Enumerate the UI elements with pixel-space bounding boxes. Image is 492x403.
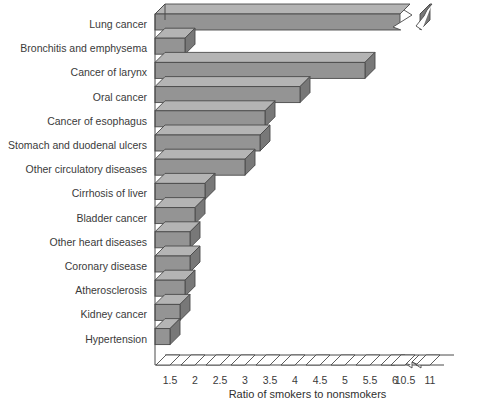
bar-front-face (155, 232, 190, 248)
x-tick-label: 4.5 (313, 374, 328, 386)
tick-wedge (231, 355, 255, 365)
bar-top-face (155, 77, 310, 87)
bar-front-face (155, 38, 185, 54)
x-tick-label: 2 (192, 374, 198, 386)
category-label-2: Bronchitis and emphysema (20, 42, 147, 54)
x-tick-11 (416, 355, 440, 365)
bar-8 (155, 173, 215, 199)
bar-front-face (155, 159, 245, 175)
chart-container: Lung cancerBronchitis and emphysemaCance… (0, 0, 492, 403)
bar-front-face (155, 111, 265, 127)
bar-top-face (155, 125, 270, 135)
bar-5 (155, 101, 275, 127)
bar-front-face (155, 304, 180, 320)
x-tick-label: 5 (342, 374, 348, 386)
x-tick-3.5 (256, 355, 280, 365)
bar-front-face (155, 135, 260, 151)
x-axis-title: Ratio of smokers to nonsmokers (229, 388, 387, 400)
smoking-ratio-bar-chart: Lung cancerBronchitis and emphysemaCance… (0, 0, 492, 403)
category-label-7: Other circulatory diseases (26, 163, 147, 175)
x-tick-labels-group: 1.522.533.544.555.5610.511 (156, 355, 440, 386)
category-label-4: Oral cancer (93, 91, 148, 103)
bars-group (155, 4, 432, 345)
category-label-5: Cancer of esophagus (47, 115, 147, 127)
bar-front-face (155, 256, 190, 272)
tick-wedge (206, 355, 230, 365)
tick-wedge (416, 355, 440, 365)
tick-wedge (356, 355, 380, 365)
tick-wedge (281, 355, 305, 365)
bar-front-face (155, 329, 170, 345)
bar-front-face (155, 87, 300, 103)
category-label-6: Stomach and duodenal ulcers (8, 139, 147, 151)
x-tick-label: 2.5 (213, 374, 228, 386)
bar-14 (155, 319, 180, 345)
category-label-10: Other heart diseases (50, 236, 147, 248)
bar-front-face (155, 14, 400, 30)
bar-front-face (155, 62, 365, 78)
category-label-8: Cirrhosis of liver (72, 187, 148, 199)
x-tick-5 (331, 355, 355, 365)
x-tick-label: 5.5 (363, 374, 378, 386)
bar-9 (155, 198, 205, 224)
x-tick-5.5 (356, 355, 380, 365)
bar-10 (155, 222, 200, 248)
x-tick-label: 3 (242, 374, 248, 386)
bar-11 (155, 246, 200, 272)
bar-front-face (155, 208, 195, 224)
category-labels-group: Lung cancerBronchitis and emphysemaCance… (8, 18, 148, 345)
bar-front-face (155, 183, 205, 199)
tick-wedge (256, 355, 280, 365)
category-label-9: Bladder cancer (76, 212, 147, 224)
x-tick-3 (231, 355, 255, 365)
category-label-1: Lung cancer (89, 18, 147, 30)
x-tick-label: 4 (292, 374, 298, 386)
x-tick-4.5 (306, 355, 330, 365)
tick-wedge (306, 355, 330, 365)
x-tick-label: 1.5 (163, 374, 178, 386)
bar-4 (155, 77, 310, 103)
bar-1 (155, 4, 432, 30)
bar-7 (155, 149, 255, 175)
category-label-14: Hypertension (85, 333, 147, 345)
category-label-12: Atherosclerosis (75, 284, 147, 296)
x-tick-4 (281, 355, 305, 365)
category-label-3: Cancer of larynx (71, 66, 148, 78)
bar-2 (155, 28, 195, 54)
bar-3 (155, 52, 375, 78)
tick-wedge (156, 355, 180, 365)
bar-12 (155, 270, 195, 296)
category-label-13: Kidney cancer (80, 308, 147, 320)
bar-top-face (155, 52, 375, 62)
x-tick-2 (181, 355, 205, 365)
x-tick-2.5 (206, 355, 230, 365)
x-tick-label: 3.5 (263, 374, 278, 386)
category-label-11: Coronary disease (65, 260, 147, 272)
tick-wedge (331, 355, 355, 365)
tick-wedge (181, 355, 205, 365)
x-tick-label: 10.5 (395, 374, 416, 386)
bar-top-face (155, 4, 410, 14)
bar-front-face (155, 280, 185, 296)
x-tick-1.5 (156, 355, 180, 365)
bar-6 (155, 125, 270, 151)
bar-13 (155, 294, 190, 320)
bar-top-face (155, 101, 275, 111)
bar-top-face (155, 149, 255, 159)
x-tick-label: 11 (425, 374, 436, 386)
